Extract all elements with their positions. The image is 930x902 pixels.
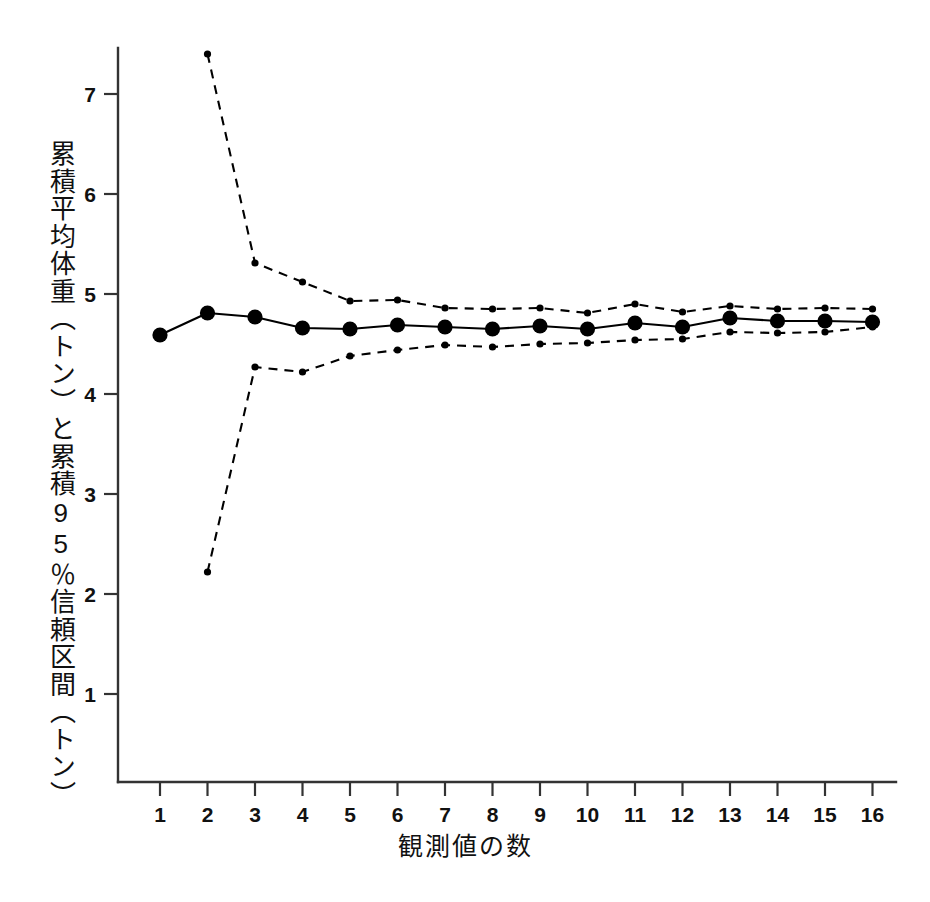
- data-point-marker: [631, 336, 638, 343]
- x-tick-label: 10: [576, 803, 599, 826]
- y-axis-label-container: 累積平均体重（トン）と累積95％信頼区間（トン）: [40, 140, 80, 660]
- x-axis-label: 観測値の数: [0, 826, 930, 862]
- data-point-marker: [485, 321, 500, 336]
- data-point-marker: [817, 313, 832, 328]
- data-point-marker: [869, 305, 876, 312]
- data-point-marker: [489, 305, 496, 312]
- x-tick-label: 8: [487, 803, 499, 826]
- x-tick-label: 3: [249, 803, 261, 826]
- data-point-marker: [726, 328, 733, 335]
- y-axis-ticks: 1234567: [84, 83, 118, 706]
- data-point-marker: [627, 315, 642, 330]
- x-tick-label: 2: [202, 803, 214, 826]
- y-tick-label: 2: [84, 583, 96, 606]
- y-tick-label: 3: [84, 483, 96, 506]
- chart-figure: 1234567 12345678910111213141516 累積平均体重（ト…: [0, 0, 930, 902]
- x-tick-label: 15: [813, 803, 837, 826]
- x-tick-label: 14: [766, 803, 790, 826]
- y-tick-label: 7: [84, 83, 96, 106]
- data-point-marker: [675, 319, 690, 334]
- x-tick-label: 4: [297, 803, 309, 826]
- x-tick-label: 16: [861, 803, 884, 826]
- y-tick-label: 5: [84, 283, 96, 306]
- data-point-marker: [437, 319, 452, 334]
- data-point-marker: [441, 304, 448, 311]
- x-tick-label: 13: [718, 803, 741, 826]
- data-point-marker: [204, 568, 211, 575]
- data-point-marker: [299, 278, 306, 285]
- series-path: [208, 327, 873, 572]
- data-point-marker: [295, 320, 310, 335]
- line-chart-plot: 1234567 12345678910111213141516: [0, 0, 930, 902]
- x-tick-label: 11: [624, 803, 647, 826]
- data-point-marker: [152, 327, 167, 342]
- data-point-marker: [251, 259, 258, 266]
- series-2: [204, 323, 876, 575]
- data-point-marker: [679, 335, 686, 342]
- axis-lines: [118, 48, 896, 782]
- data-point-marker: [489, 343, 496, 350]
- data-point-marker: [869, 323, 876, 330]
- data-point-marker: [251, 363, 258, 370]
- y-tick-label: 1: [84, 683, 96, 706]
- data-point-marker: [770, 313, 785, 328]
- x-tick-label: 1: [154, 803, 166, 826]
- y-axis-label: 累積平均体重（トン）と累積95％信頼区間（トン）: [46, 140, 74, 808]
- data-point-marker: [200, 305, 215, 320]
- data-point-marker: [342, 321, 357, 336]
- series-0: [152, 305, 880, 342]
- data-point-marker: [247, 309, 262, 324]
- data-point-marker: [346, 352, 353, 359]
- data-point-marker: [394, 346, 401, 353]
- x-tick-label: 5: [344, 803, 356, 826]
- y-tick-label: 6: [84, 183, 96, 206]
- data-point-marker: [299, 368, 306, 375]
- data-point-marker: [774, 305, 781, 312]
- data-point-marker: [390, 317, 405, 332]
- data-point-marker: [679, 308, 686, 315]
- data-point-marker: [774, 329, 781, 336]
- x-tick-label: 6: [392, 803, 404, 826]
- data-point-marker: [631, 300, 638, 307]
- data-point-marker: [726, 302, 733, 309]
- y-tick-label: 4: [84, 383, 96, 406]
- data-point-marker: [584, 309, 591, 316]
- data-point-marker: [536, 340, 543, 347]
- data-point-marker: [394, 296, 401, 303]
- data-point-marker: [536, 304, 543, 311]
- data-point-marker: [346, 297, 353, 304]
- data-point-marker: [204, 50, 211, 57]
- data-point-marker: [584, 339, 591, 346]
- data-point-marker: [821, 328, 828, 335]
- x-axis-ticks: 12345678910111213141516: [154, 782, 884, 826]
- data-point-marker: [821, 304, 828, 311]
- data-series-layer: [152, 50, 880, 575]
- data-point-marker: [532, 318, 547, 333]
- x-tick-label: 9: [534, 803, 546, 826]
- data-point-marker: [722, 310, 737, 325]
- data-point-marker: [580, 321, 595, 336]
- data-point-marker: [441, 341, 448, 348]
- x-tick-label: 12: [671, 803, 694, 826]
- x-tick-label: 7: [439, 803, 451, 826]
- series-path: [208, 54, 873, 313]
- series-1: [204, 50, 876, 316]
